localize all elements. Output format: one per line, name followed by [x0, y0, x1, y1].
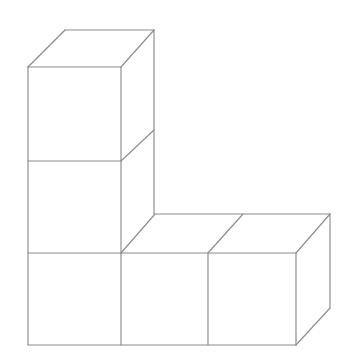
front-face-row-right-front — [208, 253, 296, 345]
front-face-column-top-front — [28, 67, 121, 161]
cube-stack-drawing — [0, 0, 349, 360]
figure-canvas: Line drawing of five unit cubes arranged… — [0, 0, 349, 360]
front-face-row-middle-front — [121, 253, 208, 345]
front-face-column-middle-front — [28, 161, 121, 253]
front-face-column-bottom-front — [28, 253, 121, 345]
